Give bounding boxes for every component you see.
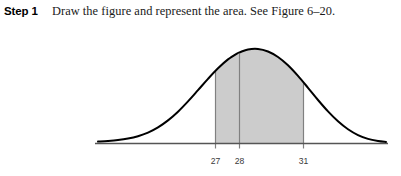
shaded-area-region — [215, 49, 303, 143]
step-instruction-line: Step 1 Draw the figure and represent the… — [0, 3, 401, 23]
normal-curve-figure: 27 28 31 — [0, 24, 401, 176]
normal-distribution-chart: 27 28 31 — [0, 24, 401, 176]
tick-label-28: 28 — [235, 156, 245, 166]
step-number-label: Step 1 — [4, 3, 38, 19]
figure-page: Step 1 Draw the figure and represent the… — [0, 0, 401, 176]
step-instruction-text: Draw the figure and represent the area. … — [52, 3, 335, 19]
tick-label-27: 27 — [211, 156, 221, 166]
tick-label-31: 31 — [299, 156, 309, 166]
